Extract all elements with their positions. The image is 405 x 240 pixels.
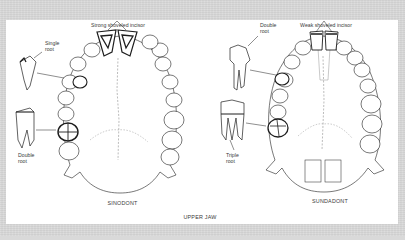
sinodont-molar-label: Double root [18,152,34,164]
sundadont-premolar-label: Double root [260,22,276,34]
sinodont-jaw [58,21,184,193]
sinodont-premolar-root-drawing [20,52,64,90]
sundadont-jaw [266,21,384,192]
sinodont-premolar-label-line2: root [45,46,59,52]
sundadont-premolar-root-drawing [230,36,276,90]
sundadont-incisor-label: Weak shoveled incisor [286,22,366,28]
sundadont-caption: SUNDADONT [300,198,360,204]
sundadont-premolar-label-line2: root [260,28,276,34]
sinodont-premolar-label: Single root [45,40,59,52]
upper-jaw-title: UPPER JAW [170,214,230,220]
sundadont-premolar-highlight [275,73,289,85]
sundadont-molar-root-drawing [221,100,266,150]
sundadont-molar-label-line2: root [226,158,239,164]
sinodont-molar-root-drawing [16,108,56,148]
sinodont-premolar-highlight [73,76,87,88]
sundadont-molar-label: Triple root [226,152,239,164]
sinodont-caption: SINODONT [95,200,150,206]
sinodont-incisor-label: Strong shoveled incisor [78,22,158,28]
sinodont-molar-label-line2: root [18,158,34,164]
